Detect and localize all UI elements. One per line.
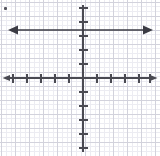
- coordinate-plane-svg: [0, 0, 160, 156]
- coordinate-graph-figure: [0, 0, 160, 156]
- stray-ink-mark: [4, 7, 7, 10]
